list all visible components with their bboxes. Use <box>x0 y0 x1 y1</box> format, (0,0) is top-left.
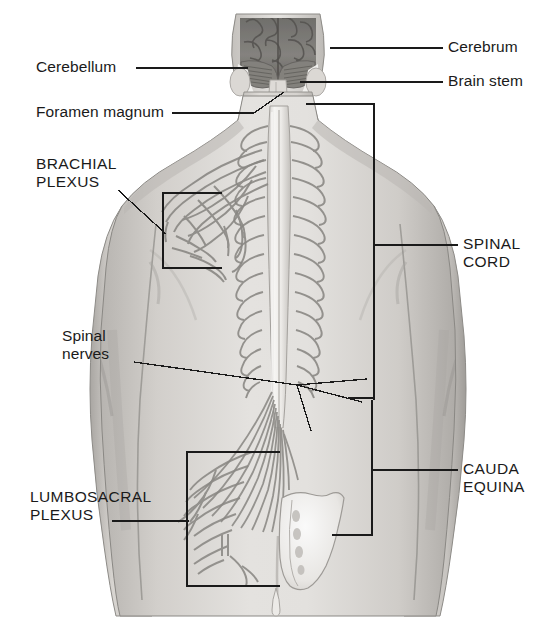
anatomy-illustration <box>0 0 556 634</box>
label-cauda-equina: CAUDA EQUINA <box>463 460 525 497</box>
label-foramen-magnum: Foramen magnum <box>36 103 164 121</box>
label-spinal-nerves: Spinal nerves <box>62 327 109 364</box>
anatomy-figure: Cerebellum Foramen magnum Cerebrum Brain… <box>0 0 556 634</box>
label-spinal-cord: SPINAL CORD <box>463 235 521 272</box>
label-lumbosacral-plexus: LUMBOSACRAL PLEXUS <box>30 488 152 525</box>
label-brain-stem: Brain stem <box>448 72 523 90</box>
label-cerebrum: Cerebrum <box>448 38 518 56</box>
label-brachial-plexus: BRACHIAL PLEXUS <box>36 155 117 192</box>
label-cerebellum: Cerebellum <box>36 58 116 76</box>
